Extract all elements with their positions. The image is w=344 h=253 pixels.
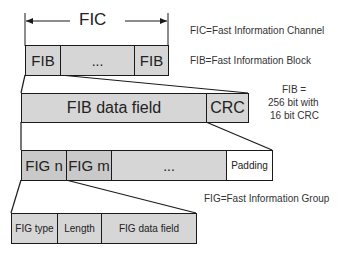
padding-box: Padding — [226, 150, 273, 181]
fic-title: FIC — [75, 10, 110, 30]
fib-box-left: FIB — [25, 45, 61, 76]
fib-size-line2: 256 bit with — [268, 97, 319, 108]
fig-m-box: FIG m — [66, 150, 112, 181]
fig-type-box: FIG type — [11, 213, 58, 244]
fic-definition: FIC=Fast Information Channel — [190, 25, 324, 36]
fig-ellipsis-box: ... — [111, 150, 227, 181]
crc-box: CRC — [206, 93, 249, 123]
fib-ellipsis-box: ... — [60, 45, 135, 76]
fib-size-line3: 16 bit CRC — [270, 110, 319, 121]
fig-definition: FIG=Fast Information Group — [204, 193, 329, 204]
fib-box-right: FIB — [134, 45, 169, 76]
fib-definition: FIB=Fast Information Block — [190, 55, 311, 66]
length-box: Length — [57, 213, 102, 244]
fib-data-field-box: FIB data field — [21, 93, 207, 123]
fib-size-line1: FIB = — [282, 84, 306, 95]
fig-n-box: FIG n — [21, 150, 67, 181]
fig-data-field-box: FIG data field — [101, 213, 197, 244]
